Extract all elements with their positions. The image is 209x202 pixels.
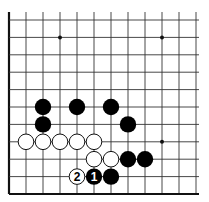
black-stone	[120, 151, 136, 167]
white-stone	[86, 151, 102, 167]
star-point	[160, 35, 164, 39]
white-stone	[69, 134, 85, 150]
white-stone-disc	[69, 134, 85, 150]
black-stone	[103, 99, 119, 115]
white-stone-move-2: 2	[69, 169, 85, 185]
black-stone-disc	[103, 168, 119, 184]
go-board: 21	[0, 0, 209, 202]
black-stone	[137, 151, 153, 167]
white-stone-disc	[86, 134, 102, 150]
white-stone-disc	[103, 151, 119, 167]
black-stone	[35, 116, 51, 132]
black-stone	[103, 168, 119, 184]
move-number-label: 1	[91, 170, 98, 184]
black-stone-disc	[103, 99, 119, 115]
black-stone-disc	[35, 116, 51, 132]
black-stone-disc	[35, 99, 51, 115]
white-stone	[86, 134, 102, 150]
black-stone-disc	[69, 99, 85, 115]
white-stone	[52, 134, 68, 150]
white-stone-disc	[86, 151, 102, 167]
black-stone-move-1: 1	[86, 168, 102, 184]
white-stone-disc	[52, 134, 68, 150]
star-point	[160, 140, 164, 144]
white-stone	[35, 134, 51, 150]
star-point	[58, 35, 62, 39]
black-stone	[35, 99, 51, 115]
white-stone-disc	[18, 134, 34, 150]
move-number-label: 2	[74, 170, 81, 184]
black-stone-disc	[120, 116, 136, 132]
white-stone	[103, 151, 119, 167]
black-stone	[69, 99, 85, 115]
white-stone	[18, 134, 34, 150]
white-stone-disc	[35, 134, 51, 150]
black-stone-disc	[120, 151, 136, 167]
black-stone-disc	[137, 151, 153, 167]
black-stone	[120, 116, 136, 132]
